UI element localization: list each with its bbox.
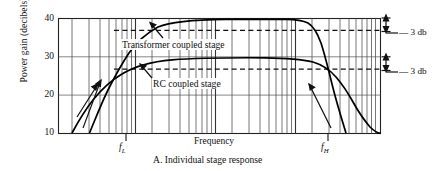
- figure-caption: A. Individual stage response: [153, 154, 262, 165]
- rc-coupled-stage-label: RC coupled stage: [152, 78, 222, 89]
- transformer-coupled-stage-curve: [90, 19, 347, 133]
- minus-3db-label-bottom: — 3 db: [399, 66, 427, 76]
- figure-individual-stage-response: Power gain (decibels) 40 30 20 10 Transf…: [0, 0, 448, 171]
- horizontal-gridlines: [59, 57, 381, 95]
- transformer-coupled-stage-label: Transformer coupled stage: [121, 39, 226, 50]
- plot-frame: [59, 19, 381, 134]
- fh-label: fH: [321, 142, 329, 154]
- minus-3db-label-top: — 3 db: [399, 27, 427, 37]
- fl-label-sub: L: [122, 147, 126, 154]
- y-tick-label-30: 30: [32, 51, 54, 61]
- y-axis-title: Power gain (decibels): [19, 0, 29, 105]
- response-curves: [72, 19, 381, 133]
- y-tick-label-40: 40: [32, 13, 54, 23]
- fh-label-sub: H: [324, 147, 329, 154]
- y-tick-label-10: 10: [32, 127, 54, 137]
- x-axis-title: Frequency: [194, 136, 234, 146]
- minus-3db-dimension-arrows: [382, 15, 399, 72]
- fl-label: fL: [119, 142, 125, 154]
- y-tick-label-20: 20: [32, 89, 54, 99]
